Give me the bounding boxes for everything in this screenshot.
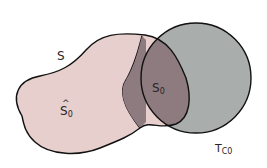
label-s-main: S (57, 49, 65, 63)
label-s-hat-0-hat: ^ (62, 99, 70, 108)
label-s0: S0 (152, 82, 165, 94)
label-s0-main: S (152, 81, 160, 95)
label-t-c0-main: T (215, 142, 222, 155)
label-t-c0-sub: C0 (222, 147, 233, 156)
label-t-c0: TC0 (215, 143, 232, 154)
label-s-hat-0-sub: 0 (68, 110, 73, 119)
label-s-hat-0: ^ S0 (60, 105, 73, 117)
label-s0-sub: 0 (160, 87, 165, 96)
label-s: S (57, 50, 65, 62)
